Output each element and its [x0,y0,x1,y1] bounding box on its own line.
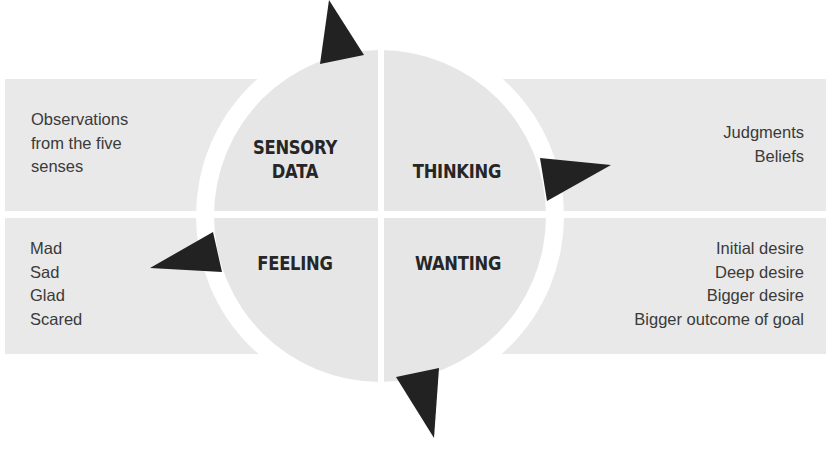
label-feeling: FEELING [243,251,346,275]
text-line: Bigger outcome of goal [634,308,804,332]
text-line: Judgments [723,121,804,145]
horizontal-divider [0,211,836,218]
vertical-divider [378,30,384,410]
label-thinking: THINKING [401,159,513,183]
text-line: from the five [31,132,128,156]
text-top-left: Observations from the five senses [31,108,128,179]
text-line: Sad [30,261,82,285]
arrow-left-icon [150,232,222,272]
text-line: Scared [30,308,82,332]
label-wanting: WANTING [406,251,509,275]
text-top-right: Judgments Beliefs [723,121,804,168]
label-sensory-data: SENSORY DATA [248,135,343,183]
label-sensory-line2: DATA [248,159,343,183]
cycle-diagram [0,0,836,451]
text-bottom-left: Mad Sad Glad Scared [30,237,82,331]
label-sensory-line1: SENSORY [248,135,343,159]
text-line: Glad [30,284,82,308]
text-bottom-right: Initial desire Deep desire Bigger desire… [634,237,804,331]
text-line: Initial desire [634,237,804,261]
arrow-down-icon [396,368,439,438]
text-line: Bigger desire [634,284,804,308]
text-line: Beliefs [723,145,804,169]
text-line: Deep desire [634,261,804,285]
text-line: Mad [30,237,82,261]
text-line: senses [31,155,128,179]
arrow-right-icon [540,158,611,201]
text-line: Observations [31,108,128,132]
arrow-up-icon [320,0,364,64]
